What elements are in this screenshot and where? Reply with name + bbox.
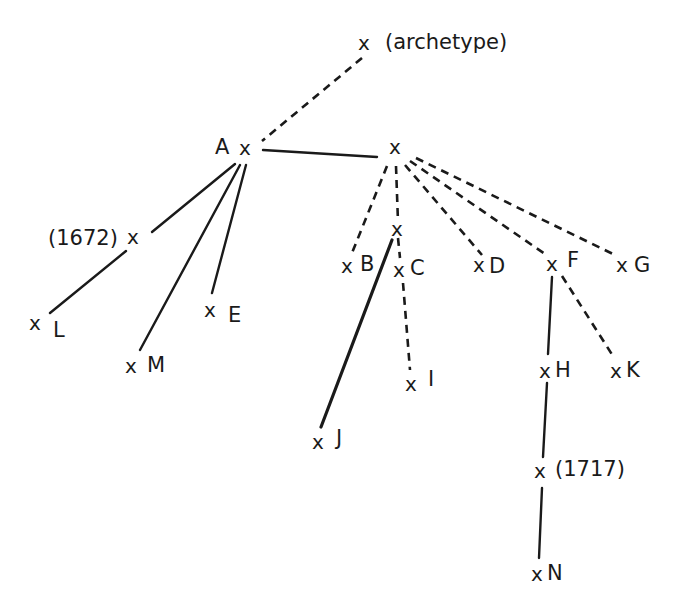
node-mark-a: x <box>239 138 251 158</box>
node-mark-f: x <box>546 254 558 274</box>
edge-f-h <box>548 277 552 354</box>
edge-a-m <box>140 165 240 350</box>
node-label-g: G <box>634 255 650 276</box>
node-mark-e: x <box>204 300 216 320</box>
edge-hyp2-j <box>321 240 392 427</box>
edge-f-k <box>562 276 613 356</box>
node-mark-j: x <box>312 432 324 452</box>
node-label-f: F <box>567 250 579 271</box>
edge-archetype-a <box>262 58 362 141</box>
node-mark-hypothetical-2: x <box>391 219 403 239</box>
node-label-m: M <box>147 355 165 376</box>
node-mark-n: x <box>531 564 543 584</box>
node-label-j: J <box>336 428 342 449</box>
node-mark-g: x <box>616 255 628 275</box>
edge-1672-l <box>50 251 126 313</box>
node-label-l: L <box>53 320 65 341</box>
node-mark-1717: x <box>534 461 546 481</box>
node-label-k: K <box>626 360 640 381</box>
node-mark-hypothetical-1: x <box>389 137 401 157</box>
node-mark-l: x <box>29 313 41 333</box>
edge-h-1717 <box>543 383 547 457</box>
node-label-1672: (1672) <box>48 228 118 249</box>
edge-c-i <box>403 283 410 370</box>
edge-hyp1-g <box>416 158 615 255</box>
node-label-d: D <box>489 256 505 277</box>
node-mark-archetype: x <box>358 33 370 53</box>
node-label-i: I <box>428 369 434 390</box>
edge-a-hyp1 <box>263 150 377 157</box>
node-label-1717: (1717) <box>555 459 625 480</box>
edge-hyp1-hyp2 <box>396 166 398 222</box>
node-label-n: N <box>547 563 563 584</box>
node-label-archetype: (archetype) <box>385 32 507 53</box>
node-mark-1672: x <box>127 227 139 247</box>
edge-hyp1-d <box>405 165 482 255</box>
node-label-c: C <box>410 258 425 279</box>
node-label-h: H <box>555 360 571 381</box>
stemma-diagram <box>0 0 679 610</box>
node-mark-h: x <box>539 361 551 381</box>
node-label-b: B <box>360 254 374 275</box>
edge-hyp1-b <box>352 166 387 253</box>
node-mark-k: x <box>610 361 622 381</box>
node-mark-c: x <box>393 260 405 280</box>
node-mark-b: x <box>341 256 353 276</box>
edge-hyp2-c <box>398 238 400 258</box>
node-label-a: A <box>215 137 229 158</box>
node-mark-d: x <box>473 255 485 275</box>
edge-1717-n <box>539 488 542 558</box>
node-label-e: E <box>228 305 241 326</box>
node-mark-m: x <box>125 356 137 376</box>
node-mark-i: x <box>405 374 417 394</box>
edge-hyp1-f <box>410 161 545 254</box>
